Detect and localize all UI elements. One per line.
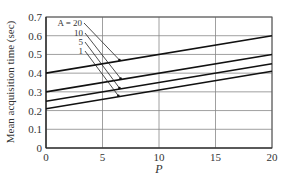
- arrow-head: [119, 77, 122, 80]
- x-axis-label: P: [154, 162, 163, 176]
- arrow-head: [118, 87, 121, 90]
- x-tick-label: 5: [100, 151, 106, 163]
- series-annotation-label: A = 20: [57, 18, 82, 28]
- series-annotation-label: 1: [79, 46, 84, 56]
- y-tick-label: 0.4: [28, 67, 42, 79]
- line-chart: 00.10.20.30.40.50.60.705101520 A = 20105…: [0, 0, 288, 180]
- y-axis-label: Mean acquisition time (sec): [4, 20, 17, 143]
- arrow-head: [118, 59, 121, 62]
- arrow-head: [117, 94, 120, 97]
- x-tick-label: 0: [43, 151, 49, 163]
- y-tick-label: 0.1: [28, 123, 42, 135]
- y-tick-label: 0.3: [28, 86, 42, 98]
- y-tick-label: 0.6: [28, 30, 42, 42]
- y-tick-label: 0: [37, 142, 43, 154]
- y-tick-label: 0.2: [28, 105, 42, 117]
- axes: 00.10.20.30.40.50.60.705101520: [28, 11, 278, 163]
- y-tick-label: 0.5: [28, 48, 42, 60]
- x-tick-label: 20: [267, 151, 279, 163]
- y-tick-label: 0.7: [28, 11, 42, 23]
- x-tick-label: 15: [210, 151, 222, 163]
